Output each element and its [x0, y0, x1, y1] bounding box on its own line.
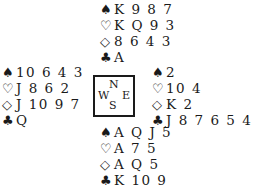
heart-icon: ♡ — [2, 81, 16, 97]
diamond-icon: ◇ — [152, 97, 166, 113]
north-spades: ♠K 9 8 7 — [100, 1, 176, 17]
compass-south: S — [109, 99, 117, 112]
west-hearts: ♡J 8 6 2 — [2, 80, 84, 96]
spade-icon: ♠ — [152, 65, 166, 81]
south-spades: ♠A Q J 5 — [100, 124, 172, 140]
compass-box: N W E S — [93, 75, 135, 117]
east-diamonds: ◇K 2 — [152, 96, 258, 112]
compass-east: E — [122, 89, 130, 102]
diamond-icon: ◇ — [100, 157, 114, 173]
south-hand: ♠A Q J 5 ♡A 7 5 ◇A Q 5 ♣K 10 9 — [100, 124, 172, 188]
north-diamonds: ◇8 6 4 3 — [100, 33, 176, 49]
west-spades: ♠10 6 4 3 — [2, 64, 84, 80]
west-diamonds: ◇J 10 9 7 — [2, 96, 84, 112]
east-spades: ♠2 — [152, 64, 258, 80]
south-diamonds: ◇A Q 5 — [100, 156, 172, 172]
club-icon: ♣ — [2, 113, 16, 129]
compass-west: W — [98, 89, 109, 102]
south-hearts: ♡A 7 5 — [100, 140, 172, 156]
club-icon: ♣ — [100, 173, 114, 189]
spade-icon: ♠ — [2, 65, 16, 81]
north-clubs: ♣A — [100, 49, 176, 65]
diamond-icon: ◇ — [100, 34, 114, 50]
west-clubs: ♣Q — [2, 112, 84, 128]
compass-north: N — [109, 78, 119, 91]
club-icon: ♣ — [100, 50, 114, 66]
south-clubs: ♣K 10 9 — [100, 172, 172, 188]
spade-icon: ♠ — [100, 125, 114, 141]
north-hearts: ♡K Q 9 3 — [100, 17, 176, 33]
heart-icon: ♡ — [152, 81, 166, 97]
north-hand: ♠K 9 8 7 ♡K Q 9 3 ◇8 6 4 3 ♣A — [100, 1, 176, 65]
spade-icon: ♠ — [100, 2, 114, 18]
heart-icon: ♡ — [100, 18, 114, 34]
west-hand: ♠10 6 4 3 ♡J 8 6 2 ◇J 10 9 7 ♣Q — [2, 64, 84, 128]
diamond-icon: ◇ — [2, 97, 16, 113]
east-hearts: ♡10 4 — [152, 80, 258, 96]
east-hand: ♠2 ♡10 4 ◇K 2 ♣J 8 7 6 5 4 3 2 — [152, 64, 258, 128]
heart-icon: ♡ — [100, 141, 114, 157]
